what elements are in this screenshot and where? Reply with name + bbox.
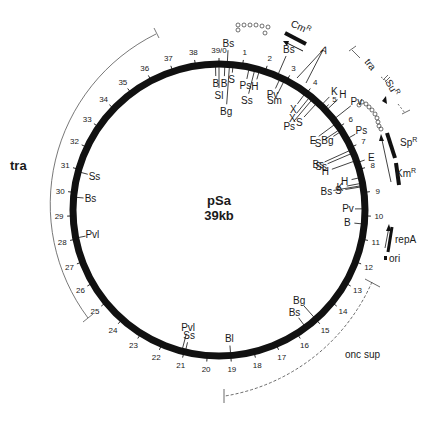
kb-tick-label: 12 bbox=[364, 263, 373, 272]
sp-resistance-label: SpR bbox=[400, 136, 417, 148]
tra-dashed-label: tra bbox=[362, 56, 378, 72]
tra-arc-end-top bbox=[154, 28, 159, 38]
restriction-site-marker bbox=[230, 346, 231, 353]
restriction-site-marker bbox=[347, 184, 360, 186]
kb-tick-label: 11 bbox=[372, 238, 381, 247]
restriction-site-label: E bbox=[368, 152, 375, 163]
plasmid-size: 39kb bbox=[204, 208, 234, 223]
kb-tick-label: 13 bbox=[353, 286, 362, 295]
kb-tick-label: 18 bbox=[253, 361, 262, 370]
kb-tick-label: 37 bbox=[164, 54, 173, 63]
ori-marker bbox=[384, 256, 387, 260]
tra-dashed-arc bbox=[352, 50, 360, 58]
repa-label: repA bbox=[395, 234, 416, 245]
kb-tick-label: 19 bbox=[227, 365, 236, 374]
su-resistance-label: SuR bbox=[383, 77, 402, 98]
restriction-site-marker bbox=[257, 73, 259, 80]
kb-tick-label: 38 bbox=[189, 48, 198, 57]
restriction-site-marker bbox=[81, 172, 88, 174]
kb-tick bbox=[207, 354, 208, 362]
km-resistance-label: KmR bbox=[396, 167, 416, 179]
tra-region-label: tra bbox=[10, 158, 27, 173]
restriction-site-marker bbox=[275, 80, 279, 88]
restriction-site-label: S bbox=[228, 74, 235, 85]
kb-tick-label: 28 bbox=[58, 238, 67, 247]
kb-tick-label: 10 bbox=[374, 212, 383, 221]
kb-tick-label: 36 bbox=[140, 64, 149, 73]
restriction-site-label: B bbox=[221, 78, 228, 89]
kb-tick-label: 20 bbox=[202, 365, 211, 374]
restriction-site-marker bbox=[332, 161, 354, 169]
restriction-site-label: Bs bbox=[289, 307, 301, 318]
restriction-site-label: Bs bbox=[85, 193, 97, 204]
kb-tick-label: 29 bbox=[55, 212, 64, 221]
restriction-site-label: Bg bbox=[293, 295, 305, 306]
restriction-site-label: S bbox=[335, 185, 342, 196]
kb-tick-label: 22 bbox=[152, 353, 161, 362]
restriction-site-label: Bg bbox=[220, 106, 232, 117]
restriction-site-label: Ss bbox=[89, 171, 101, 182]
restriction-site-marker bbox=[304, 105, 315, 118]
restriction-site-label: Pvl bbox=[85, 229, 99, 240]
restriction-site-marker bbox=[186, 342, 188, 349]
kb-tick-label: 6 bbox=[348, 115, 353, 124]
kb-tick-label: 1 bbox=[242, 48, 247, 57]
restriction-site-label: Ss bbox=[241, 95, 253, 106]
restriction-site-label: Pv bbox=[342, 203, 354, 214]
kb-tick-label: 24 bbox=[108, 326, 117, 335]
kb-tick-label: 25 bbox=[91, 307, 100, 316]
kb-tick-label: 14 bbox=[338, 307, 347, 316]
kb-tick-label: 4 bbox=[313, 78, 318, 87]
gene-a-pointer-1 bbox=[297, 50, 323, 78]
repa-arrowhead-icon bbox=[386, 224, 391, 231]
restriction-site-label: Bg bbox=[321, 135, 333, 146]
kb-tick-label: 2 bbox=[267, 54, 272, 63]
kb-tick-label: 7 bbox=[361, 137, 366, 146]
restriction-site-label: Sl bbox=[215, 90, 224, 101]
kb-tick-label: 27 bbox=[65, 263, 74, 272]
sp-km-arrowhead-icon bbox=[379, 134, 384, 141]
kb-tick-label: 9 bbox=[376, 187, 381, 196]
restriction-site-label: Bl bbox=[225, 333, 234, 344]
kb-tick-label: 34 bbox=[99, 95, 108, 104]
restriction-site-marker bbox=[304, 306, 314, 317]
restriction-site-label: B bbox=[213, 78, 220, 89]
restriction-site-marker bbox=[279, 56, 287, 73]
restriction-site-label: H bbox=[339, 89, 346, 100]
kb-tick-label: 15 bbox=[321, 326, 330, 335]
kb-tick-label: 26 bbox=[76, 286, 85, 295]
restriction-site-marker bbox=[349, 134, 355, 137]
restriction-site-marker bbox=[323, 97, 329, 103]
restriction-site-label: Pvl bbox=[181, 322, 195, 333]
kb-tick-label: 35 bbox=[118, 78, 127, 87]
plasmid-map: tra tra onc sup pSa 39kb 39/012345678910… bbox=[0, 0, 436, 421]
onc-sup-label: onc sup bbox=[345, 349, 380, 360]
kb-tick-label: 23 bbox=[129, 341, 138, 350]
cm-resistance-label: CmR bbox=[289, 17, 313, 37]
kb-tick-label: 17 bbox=[277, 353, 286, 362]
restriction-site-label: Ps bbox=[283, 121, 295, 132]
su-arrowhead-icon bbox=[382, 96, 387, 104]
restriction-site-marker bbox=[297, 95, 304, 104]
restriction-site-marker bbox=[354, 223, 361, 224]
restriction-site-label: H bbox=[322, 166, 329, 177]
restriction-site-marker bbox=[227, 50, 228, 61]
restriction-site-label: H bbox=[251, 81, 258, 92]
restriction-site-marker bbox=[360, 160, 365, 162]
kb-tick-label: 30 bbox=[56, 187, 65, 196]
kb-tick bbox=[231, 354, 232, 362]
kb-tick-label: 3 bbox=[291, 64, 296, 73]
ori-label: ori bbox=[389, 253, 400, 264]
restriction-site-marker bbox=[352, 178, 359, 180]
kb-tick-label: 21 bbox=[176, 361, 185, 370]
restriction-site-label: Ps bbox=[356, 125, 368, 136]
kb-tick-label: 31 bbox=[61, 161, 70, 170]
restriction-site-label: K bbox=[331, 86, 338, 97]
plasmid-name: pSa bbox=[207, 193, 232, 208]
restriction-site-label: S bbox=[296, 117, 303, 128]
sp-resistance-bar bbox=[387, 133, 395, 158]
tra-dashed-line-low bbox=[398, 104, 405, 113]
restriction-site-label: B bbox=[344, 217, 351, 228]
onc-sup-end-top bbox=[365, 279, 380, 287]
kb-tick-label: 32 bbox=[70, 137, 79, 146]
